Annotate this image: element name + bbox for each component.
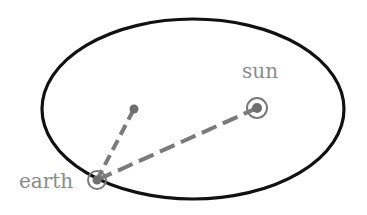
sun-marker-icon: [247, 98, 267, 118]
orbit-ellipse: [42, 19, 344, 199]
sun-label: sun: [242, 61, 278, 81]
earth-label: earth: [19, 171, 73, 191]
empty-focus-dot-icon: [130, 105, 139, 114]
earth-to-focus-dashed-line: [97, 109, 134, 180]
earth-to-sun-dashed-line: [97, 108, 257, 180]
